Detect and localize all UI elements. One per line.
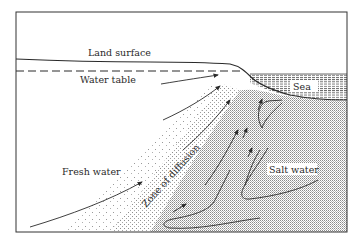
sea-label: Sea [293,81,311,92]
fresh-water-label: Fresh water [62,166,121,177]
land-surface-label: Land surface [88,47,151,58]
salt-water-label: Salt water [269,164,319,175]
water-table-label: Water table [80,74,136,85]
diagram-canvas: Land surface Water table Sea Fresh water… [0,0,361,243]
